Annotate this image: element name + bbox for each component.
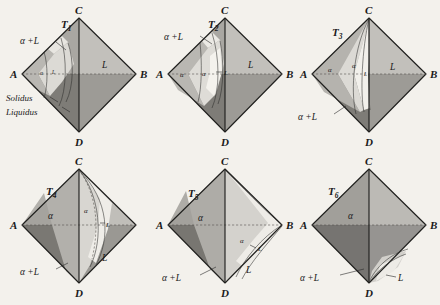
label-liquid: L [397,273,403,283]
label-alpha-small: α [180,71,184,79]
vertex-a: A [155,68,163,80]
label-l-small: L [223,69,228,77]
vertex-c: C [221,155,229,167]
vertex-b: B [429,68,437,80]
label-liquidus: Liquidus [5,107,38,117]
phase-diagram-figure: T1 C A B D α +L L α L Solidus Liquidus [0,0,440,305]
label-l-small: L [51,69,55,75]
vertex-b: B [285,219,293,231]
panel-t5: T5 C A B D α α L L α +L [150,153,300,305]
label-alpha-plus-l: α +L [164,32,183,42]
vertex-a: A [299,68,307,80]
label-liquid: L [389,62,395,72]
label-liquid: L [245,265,251,275]
panel-t1: T1 C A B D α +L L α L Solidus Liquidus [4,2,154,154]
label-alpha-plus-l: α +L [20,267,39,277]
vertex-d: D [220,287,229,299]
vertex-c: C [365,4,373,16]
vertex-d: D [74,287,83,299]
temp-label-t6: T6 [328,185,339,200]
label-alpha-small: α [40,70,43,76]
panel-t4: T4 C A D α α L L α +L [4,153,154,305]
label-liquid: L [247,60,253,70]
label-alpha-plus-l: α +L [20,36,39,46]
vertex-b: B [285,68,293,80]
vertex-a: A [9,68,17,80]
vertex-d: D [364,136,373,148]
vertex-d: D [220,136,229,148]
panel-t2: T2 C A B D α +L L α α L [150,2,300,154]
vertex-d: D [74,136,83,148]
label-alpha-small-2: α [240,237,244,245]
label-solidus: Solidus [6,93,33,103]
vertex-a: A [155,219,163,231]
label-alpha-small-2: α [202,70,206,78]
vertex-c: C [75,155,83,167]
vertex-a: A [9,219,17,231]
vertex-c: C [365,155,373,167]
panel-t6: T6 C A B D α α +L L [294,153,440,305]
label-l-small: L [257,245,262,253]
vertex-a: A [299,219,307,231]
vertex-c: C [75,4,83,16]
label-liquid: L [101,60,107,70]
panel-t3: T3 C A B D α +L L α α L [294,2,440,154]
vertex-b: B [429,219,437,231]
label-l-small: L [363,71,367,77]
temp-label-t3: T3 [332,26,343,41]
label-l-small: L [105,221,110,229]
label-alpha-plus-l: α +L [162,273,181,283]
label-liquid: L [101,253,107,263]
label-alpha-small-2: α [84,207,88,215]
label-alpha-small: α [328,66,332,74]
vertex-c: C [221,4,229,16]
label-alpha-small-2: α [352,62,356,70]
label-alpha-plus-l: α +L [298,112,317,122]
label-alpha-plus-l: α +L [300,273,319,283]
vertex-b: B [139,68,147,80]
vertex-d: D [364,287,373,299]
